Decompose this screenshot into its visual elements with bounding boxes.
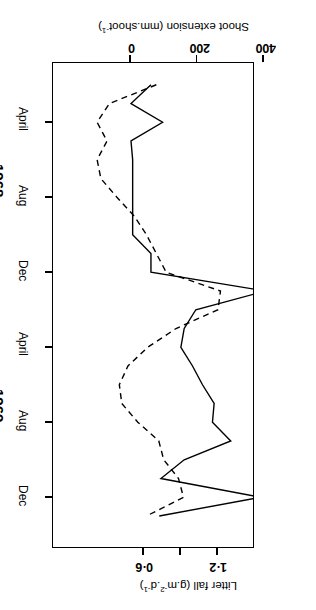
litter-axis-title-exponent-1: -2	[160, 585, 167, 594]
shoot-tick-0	[130, 55, 132, 62]
litter-fall-axis-title: Litter fall (g.m-2.d-1)	[140, 580, 237, 594]
shoot-tick-label-200: 200	[190, 41, 210, 55]
time-tick-april-1969	[45, 347, 52, 349]
time-label-april-1968: April	[16, 107, 30, 131]
time-label-year-1968: 1968	[0, 164, 7, 197]
shoot-axis-title-exponent: -1	[102, 26, 109, 35]
shoot-tick-label-400: 400	[256, 41, 276, 55]
shoot-axis-title-close: )	[98, 21, 102, 33]
shoot-tick-200	[196, 55, 198, 62]
shoot-axis-title-text: Shoot extension (mm.shoot	[109, 21, 249, 33]
litter-tick-1-2	[217, 548, 219, 555]
data-curves-layer	[52, 62, 254, 548]
litter-tick-0-6	[143, 548, 145, 555]
litter-tick-label-1-2: 1·2	[210, 560, 227, 574]
figure-rotation-wrapper: 0 200 400 Shoot extension (mm.shoot-1) 0…	[0, 0, 316, 610]
time-label-dec-1968: Dec	[16, 260, 30, 281]
series-litter-fall-line	[97, 85, 220, 516]
litter-axis-title-close: )	[140, 580, 144, 592]
time-tick-dec-1968	[45, 272, 52, 274]
shoot-extension-axis-title: Shoot extension (mm.shoot-1)	[98, 21, 249, 35]
time-tick-aug-1969	[45, 422, 52, 424]
series-shoot-extension-line	[131, 85, 254, 516]
time-label-aug-1969: Aug	[16, 410, 30, 431]
figure-canvas: 0 200 400 Shoot extension (mm.shoot-1) 0…	[0, 0, 316, 610]
litter-tick-label-0-6: 0·6	[136, 560, 153, 574]
time-tick-aug-1968	[45, 197, 52, 199]
litter-axis-title-exponent-2: -1	[143, 585, 150, 594]
litter-tick-0-9	[180, 548, 182, 555]
time-label-dec-1969: Dec	[16, 485, 30, 506]
litter-axis-title-text: Litter fall (g.m	[167, 580, 237, 592]
litter-axis-title-mid: .d	[151, 580, 161, 592]
shoot-tick-label-0: 0	[128, 41, 135, 55]
time-label-april-1969: April	[16, 332, 30, 356]
time-tick-april-1968	[45, 122, 52, 124]
time-tick-dec-1969	[45, 497, 52, 499]
shoot-tick-400	[263, 55, 265, 62]
time-label-year-1969: 1969	[0, 389, 7, 422]
time-label-aug-1968: Aug	[16, 185, 30, 206]
